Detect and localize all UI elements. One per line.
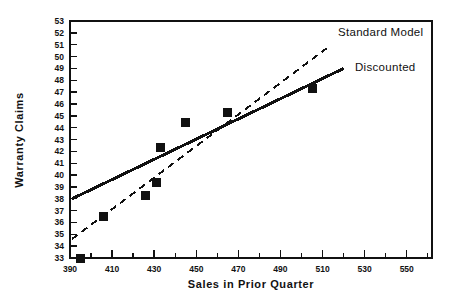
- y-tick-label-50: 50: [55, 52, 65, 62]
- data-point-group: [76, 84, 317, 262]
- data-point-7: [308, 84, 317, 93]
- y-axis-tick-group: [70, 21, 77, 258]
- y-tick-label-33: 33: [55, 253, 65, 263]
- y-axis-title: Warranty Claims: [13, 92, 25, 187]
- y-tick-label-51: 51: [55, 40, 65, 50]
- y-tick-label-37: 37: [55, 206, 65, 216]
- scatter-plot-svg: 3334353637383940414243444546474849505152…: [0, 0, 449, 300]
- x-axis-tick-group: [70, 250, 428, 258]
- fit-line-discounted: [72, 68, 344, 198]
- x-tick-label-510: 510: [315, 264, 329, 274]
- series-label-standard-model: Standard Model: [338, 26, 423, 38]
- y-tick-label-38: 38: [55, 194, 65, 204]
- y-tick-label-40: 40: [55, 170, 65, 180]
- x-axis-title: Sales in Prior Quarter: [188, 278, 314, 290]
- x-tick-label-490: 490: [273, 264, 287, 274]
- y-tick-label-43: 43: [55, 135, 65, 145]
- series-label-discounted: Discounted: [355, 61, 416, 73]
- x-tick-label-430: 430: [147, 264, 161, 274]
- x-tick-label-530: 530: [358, 264, 372, 274]
- data-point-4: [156, 143, 165, 152]
- x-tick-label-450: 450: [189, 264, 203, 274]
- x-axis-tick-labels: 390410430450470490510530550: [63, 264, 414, 274]
- x-tick-label-410: 410: [105, 264, 119, 274]
- y-tick-label-34: 34: [55, 241, 65, 251]
- data-point-3: [152, 178, 161, 187]
- x-tick-label-390: 390: [63, 264, 77, 274]
- y-tick-label-36: 36: [55, 217, 65, 227]
- y-tick-label-35: 35: [55, 229, 65, 239]
- y-tick-label-39: 39: [55, 182, 65, 192]
- y-tick-label-46: 46: [55, 99, 65, 109]
- x-tick-label-470: 470: [231, 264, 245, 274]
- y-tick-label-48: 48: [55, 75, 65, 85]
- y-tick-label-53: 53: [55, 16, 65, 26]
- y-tick-label-49: 49: [55, 63, 65, 73]
- chart-container: 3334353637383940414243444546474849505152…: [0, 0, 449, 300]
- y-tick-label-41: 41: [55, 158, 65, 168]
- y-tick-label-45: 45: [55, 111, 65, 121]
- data-point-1: [99, 212, 108, 221]
- plot-frame: [70, 21, 432, 258]
- y-tick-label-44: 44: [55, 123, 65, 133]
- y-tick-label-47: 47: [55, 87, 65, 97]
- fit-line-standard-model: [72, 48, 327, 239]
- data-point-0: [76, 254, 85, 263]
- data-point-6: [223, 108, 232, 117]
- data-point-5: [181, 118, 190, 127]
- data-point-2: [141, 191, 150, 200]
- y-axis-tick-labels: 3334353637383940414243444546474849505152…: [55, 16, 65, 263]
- x-tick-label-550: 550: [400, 264, 414, 274]
- y-tick-label-42: 42: [55, 146, 65, 156]
- regression-lines-group: [72, 48, 344, 239]
- y-tick-label-52: 52: [55, 28, 65, 38]
